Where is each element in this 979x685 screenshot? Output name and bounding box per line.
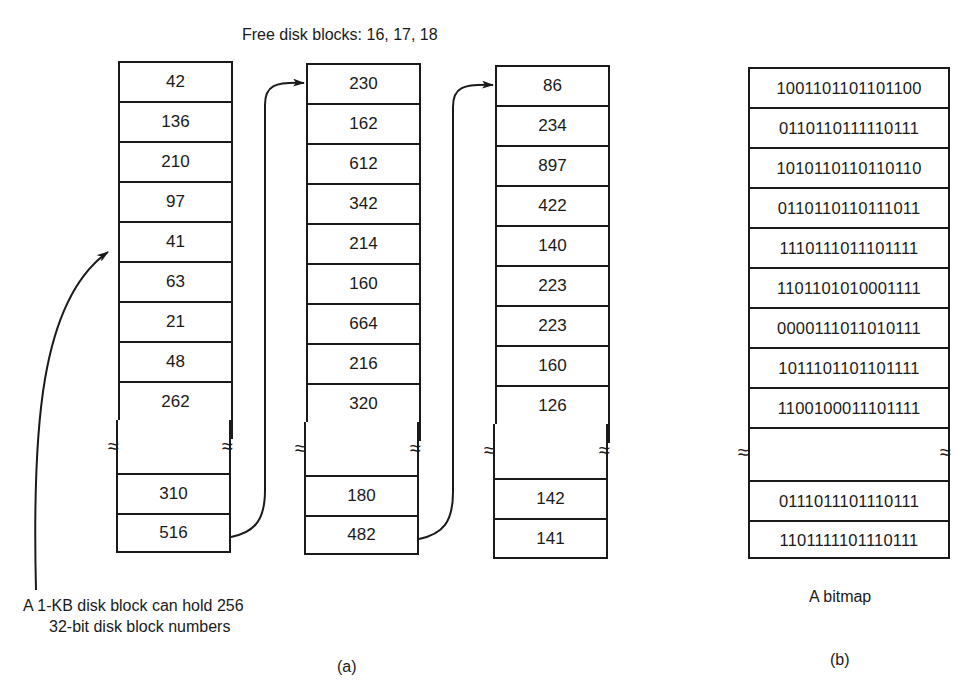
next-pointer-arrow-2 <box>419 85 493 539</box>
bitmap-caption: A bitmap <box>809 588 871 606</box>
figure-label-a: (a) <box>337 658 357 676</box>
annotation-text-line2: 32-bit disk block numbers <box>49 618 230 636</box>
link-arrows <box>0 0 979 685</box>
annotation-text-line1: A 1-KB disk block can hold 256 <box>23 597 244 615</box>
figure-label-b: (b) <box>830 651 850 669</box>
annotation-arrow <box>35 252 108 590</box>
next-pointer-arrow-1 <box>231 83 304 537</box>
